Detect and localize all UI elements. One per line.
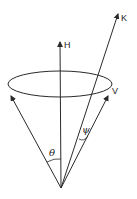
theta-label: θ xyxy=(49,147,55,158)
v-label: V xyxy=(112,86,118,96)
h-label: H xyxy=(64,40,71,50)
cone-diagram: H K V θ ψ xyxy=(0,0,137,199)
psi-label: ψ xyxy=(82,124,90,135)
cone-left-edge-arrow xyxy=(11,96,61,188)
v-vector-arrow xyxy=(61,96,108,188)
k-label: K xyxy=(121,13,127,23)
theta-angle-arc xyxy=(47,159,61,162)
h-axis-arrow xyxy=(60,42,61,188)
psi-angle-arc xyxy=(79,136,88,140)
